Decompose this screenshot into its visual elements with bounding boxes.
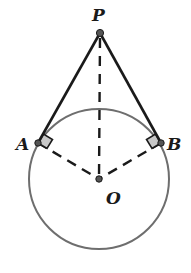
point-o <box>96 176 102 182</box>
label-o: O <box>106 188 121 208</box>
point-b <box>158 140 164 146</box>
label-a: A <box>14 134 29 154</box>
point-p <box>96 29 103 36</box>
geometry-figure: P A B O <box>0 0 191 273</box>
label-p: P <box>91 5 106 25</box>
diagram-canvas: P A B O <box>0 0 191 273</box>
label-b: B <box>166 134 181 154</box>
point-a <box>35 140 41 146</box>
tangent-pb <box>100 33 161 143</box>
tangent-pa <box>38 33 100 143</box>
